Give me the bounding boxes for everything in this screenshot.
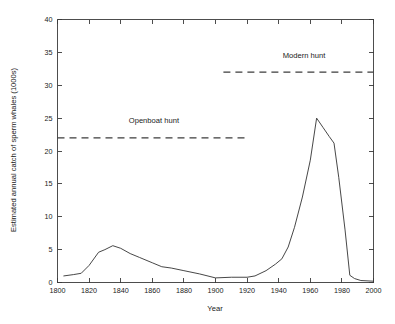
annotation-label-modern-hunt: Modern hunt: [283, 51, 327, 60]
chart-figure: 1800182018401860188019001920194019601980…: [0, 0, 395, 324]
y-tick-label-0: 0: [49, 278, 53, 287]
x-tick-label-1900: 1900: [208, 286, 224, 295]
x-tick-label-1880: 1880: [176, 286, 192, 295]
y-tick-label-35: 35: [45, 48, 53, 57]
y-axis-title: Estimated annual catch of sperm whales (…: [9, 67, 18, 232]
y-tick-label-15: 15: [45, 179, 53, 188]
x-tick-label-1920: 1920: [239, 286, 255, 295]
y-tick-label-20: 20: [45, 147, 53, 156]
y-tick-label-25: 25: [45, 114, 53, 123]
y-tick-label-40: 40: [45, 15, 53, 24]
whale-catch-line-chart: 1800182018401860188019001920194019601980…: [0, 0, 395, 324]
x-tick-label-1940: 1940: [271, 286, 287, 295]
x-axis-title: Year: [207, 304, 223, 313]
x-tick-label-1860: 1860: [144, 286, 160, 295]
y-tick-label-10: 10: [45, 212, 53, 221]
x-tick-label-1980: 1980: [334, 286, 350, 295]
chart-background: [0, 0, 395, 324]
y-tick-label-30: 30: [45, 81, 53, 90]
x-tick-label-1820: 1820: [81, 286, 97, 295]
x-tick-label-2000: 2000: [366, 286, 382, 295]
x-tick-label-1840: 1840: [113, 286, 129, 295]
x-tick-label-1960: 1960: [302, 286, 318, 295]
y-tick-label-5: 5: [49, 245, 53, 254]
annotation-label-openboat-hunt: Openboat hunt: [129, 116, 180, 125]
